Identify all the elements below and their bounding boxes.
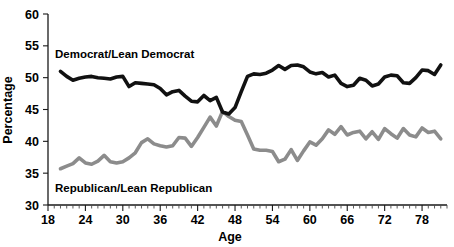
- x-tick-label: 24: [78, 213, 92, 227]
- x-axis-title: Age: [218, 230, 242, 244]
- x-tick-label: 72: [378, 213, 392, 227]
- x-tick-label: 30: [116, 213, 130, 227]
- x-tick-label: 60: [303, 213, 317, 227]
- x-axis-ticks: [48, 205, 447, 211]
- series-line-democrat: [60, 65, 440, 114]
- series-label-republican: Republican/Lean Republican: [55, 182, 212, 194]
- series-label-democrat: Democrat/Lean Democrat: [55, 48, 194, 60]
- y-axis-ticks: [43, 14, 48, 205]
- x-tick-label: 18: [41, 213, 55, 227]
- y-axis-title: Percentage: [1, 76, 15, 143]
- chart-figure: 30354045505560 1824303642485460667278 De…: [0, 0, 454, 247]
- x-tick-label: 78: [415, 213, 429, 227]
- chart-series-group: [60, 65, 440, 169]
- x-tick-label: 54: [265, 213, 279, 227]
- x-axis-tick-labels: 1824303642485460667278: [41, 213, 429, 227]
- x-tick-label: 36: [153, 213, 167, 227]
- x-tick-label: 42: [191, 213, 205, 227]
- y-axis-tick-labels: 30354045505560: [25, 8, 39, 213]
- line-chart-svg: 30354045505560 1824303642485460667278 De…: [0, 0, 454, 247]
- chart-axes: 30354045505560 1824303642485460667278: [25, 8, 447, 228]
- y-tick-label: 35: [25, 167, 39, 181]
- x-tick-label: 66: [340, 213, 354, 227]
- y-tick-label: 45: [25, 103, 39, 117]
- series-line-republican: [60, 111, 440, 168]
- x-tick-label: 48: [228, 213, 242, 227]
- y-tick-label: 40: [25, 135, 39, 149]
- y-tick-label: 60: [25, 8, 39, 22]
- y-tick-label: 30: [25, 199, 39, 213]
- y-tick-label: 55: [25, 39, 39, 53]
- y-tick-label: 50: [25, 71, 39, 85]
